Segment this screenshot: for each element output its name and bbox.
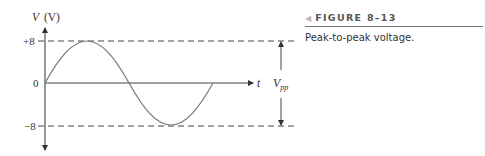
y-axis-label: V (V) (32, 11, 60, 24)
figure-number: ◀FIGURE 8–13 (305, 12, 483, 27)
figure-caption: Peak-to-peak voltage. (305, 32, 483, 43)
figure-caption-block: ◀FIGURE 8–13 Peak-to-peak voltage. (305, 12, 483, 43)
vpp-label: Vpp (273, 76, 288, 92)
tick-label-neg8: −8 (24, 120, 36, 132)
figure-number-text: FIGURE 8–13 (315, 12, 397, 23)
x-axis-label: t (257, 77, 261, 89)
tick-label-pos8: +8 (23, 35, 35, 47)
triangle-marker-icon: ◀ (305, 14, 311, 23)
peak-to-peak-diagram: V (V) t +8 0 −8 Vpp (0, 0, 300, 156)
tick-label-zero: 0 (33, 77, 39, 89)
